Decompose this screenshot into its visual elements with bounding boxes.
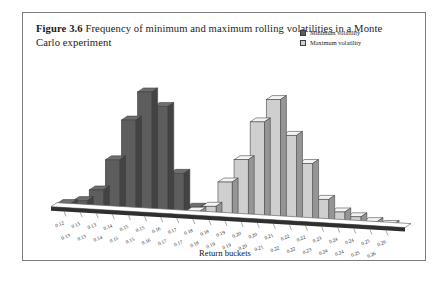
legend-item-minimum-volatility: Minimum volatility — [300, 28, 361, 38]
x-tick-label: 0.13 — [70, 220, 81, 229]
x-tick-label: 0.24 — [328, 235, 339, 244]
x-tick-label: 0.15 — [119, 223, 130, 232]
legend-item-maximum-volatility: Maximum volatility — [300, 38, 361, 48]
figure-label: Figure 3.6 — [36, 23, 83, 34]
histogram-svg: 0.120.130.130.140.150.150.160.170.180.18… — [23, 57, 427, 260]
x-tick-label-secondary: 0.13 — [60, 232, 71, 241]
x-tick-label: 0.20 — [247, 231, 258, 240]
x-tick-label: 0.19 — [215, 229, 226, 238]
x-tick-label: 0.18 — [183, 227, 194, 236]
chart-legend: Minimum volatility Maximum volatility — [300, 28, 361, 48]
x-tick-label: 0.17 — [167, 226, 178, 235]
x-tick-label: 0.20 — [231, 230, 242, 239]
legend-swatch-minimum — [300, 30, 306, 36]
x-tick-label: 0.21 — [263, 232, 274, 241]
legend-swatch-maximum — [300, 40, 306, 46]
x-tick-label: 0.12 — [54, 219, 65, 228]
legend-label-minimum: Minimum volatility — [310, 28, 360, 38]
x-tick-label: 0.23 — [312, 235, 323, 244]
x-tick-label: 0.18 — [199, 228, 210, 237]
x-tick-label: 0.15 — [135, 224, 146, 233]
x-tick-label-secondary: 0.15 — [109, 235, 120, 244]
x-tick-label: 0.22 — [280, 233, 291, 242]
x-tick-label: 0.14 — [102, 222, 113, 231]
x-tick-label: 0.26 — [376, 238, 387, 247]
x-tick-label-secondary: 0.14 — [92, 234, 103, 243]
x-tick-label: 0.24 — [344, 236, 355, 245]
x-tick-label-secondary: 0.16 — [141, 237, 152, 246]
chart-plot-area: 0.120.130.130.140.150.150.160.170.180.18… — [23, 57, 427, 260]
x-tick-label: 0.13 — [86, 221, 97, 230]
x-tick-label: 0.25 — [360, 237, 371, 246]
x-tick-label: 0.16 — [151, 225, 162, 234]
x-tick-label-secondary: 0.17 — [157, 237, 168, 246]
x-tick-label-secondary: 0.13 — [76, 233, 87, 242]
x-tick-label-secondary: 0.17 — [173, 238, 184, 247]
x-axis-title: Return buckets — [23, 248, 427, 258]
x-tick-label-secondary: 0.15 — [125, 236, 136, 245]
x-tick-label: 0.22 — [296, 234, 307, 243]
figure-container: Figure 3.6 Frequency of minimum and maxi… — [22, 12, 426, 261]
legend-label-maximum: Maximum volatility — [310, 38, 361, 48]
